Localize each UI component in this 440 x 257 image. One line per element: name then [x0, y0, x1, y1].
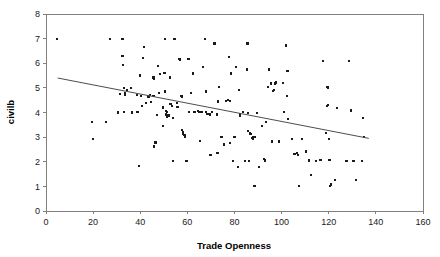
data-point — [223, 143, 225, 145]
data-point — [247, 112, 249, 114]
data-point — [246, 68, 248, 70]
data-point — [232, 160, 234, 162]
data-point — [124, 94, 126, 96]
data-point — [153, 76, 155, 78]
x-tick-label: 120 — [321, 217, 336, 227]
y-tick-label: 2 — [35, 157, 40, 167]
data-point — [326, 105, 328, 107]
scatter-chart: 012345678020406080100120140160 Trade Ope… — [0, 0, 440, 257]
data-point — [122, 64, 124, 66]
data-point — [166, 111, 168, 113]
data-point — [136, 111, 138, 113]
data-point — [252, 138, 254, 140]
x-tick-label: 20 — [88, 217, 98, 227]
data-point — [256, 112, 258, 114]
data-point — [248, 160, 250, 162]
data-point — [121, 55, 123, 57]
data-point — [238, 89, 240, 91]
data-point — [301, 138, 303, 140]
data-point — [218, 86, 220, 88]
data-point — [330, 183, 332, 185]
data-point — [239, 114, 241, 116]
data-point — [187, 58, 189, 60]
data-point — [274, 82, 276, 84]
data-point — [355, 179, 357, 181]
data-point — [265, 121, 267, 123]
data-point — [205, 111, 207, 113]
data-point — [225, 100, 227, 102]
data-point — [121, 38, 123, 40]
data-point — [123, 111, 125, 113]
data-point — [246, 42, 248, 44]
data-point — [204, 38, 206, 40]
data-point — [205, 90, 207, 92]
data-point — [171, 105, 173, 107]
data-point — [162, 106, 164, 108]
data-point — [130, 87, 132, 89]
data-point — [172, 160, 174, 162]
data-point — [254, 136, 256, 138]
data-point — [166, 116, 168, 118]
data-point — [56, 38, 58, 40]
y-tick-label: 0 — [35, 206, 40, 216]
data-point — [230, 72, 232, 74]
data-point — [216, 113, 218, 115]
data-point — [271, 140, 273, 142]
data-point — [270, 82, 272, 84]
data-point — [143, 46, 145, 48]
data-point — [177, 106, 179, 108]
data-point — [334, 179, 336, 181]
data-point — [159, 73, 161, 75]
data-point — [229, 100, 231, 102]
data-point — [258, 166, 260, 168]
data-point — [322, 60, 324, 62]
x-tick-label: 140 — [368, 217, 383, 227]
data-point — [169, 76, 171, 78]
x-tick-label: 0 — [43, 217, 48, 227]
y-tick-label: 5 — [35, 83, 40, 93]
data-point — [162, 125, 164, 127]
data-point — [213, 42, 215, 44]
data-point — [131, 111, 133, 113]
data-point — [235, 66, 237, 68]
data-point — [167, 114, 169, 116]
data-point — [328, 159, 330, 161]
data-point — [278, 140, 280, 142]
data-point — [91, 121, 93, 123]
data-point — [361, 160, 363, 162]
data-point — [165, 113, 167, 115]
data-point — [163, 72, 165, 74]
data-point — [253, 185, 255, 187]
data-point — [327, 87, 329, 89]
data-point — [352, 160, 354, 162]
data-point — [209, 113, 211, 115]
data-point — [153, 145, 155, 147]
data-point — [267, 86, 269, 88]
data-point — [190, 92, 192, 94]
data-point — [252, 136, 254, 138]
data-point — [176, 102, 178, 104]
x-tick-label: 60 — [182, 217, 192, 227]
data-point — [164, 38, 166, 40]
data-point — [298, 185, 300, 187]
data-point — [211, 111, 213, 113]
data-point — [345, 160, 347, 162]
data-point — [249, 133, 251, 135]
data-point — [216, 152, 218, 154]
data-point — [220, 136, 222, 138]
x-tick-label: 80 — [229, 217, 239, 227]
data-point — [154, 141, 156, 143]
data-point — [150, 101, 152, 103]
data-point — [282, 82, 284, 84]
data-point — [286, 70, 288, 72]
data-point — [140, 95, 142, 97]
data-point — [200, 111, 202, 113]
data-point — [350, 109, 352, 111]
data-point — [315, 160, 317, 162]
data-point — [105, 121, 107, 123]
data-point — [157, 65, 159, 67]
data-point — [202, 66, 204, 68]
data-point — [145, 102, 147, 104]
data-point — [136, 94, 138, 96]
data-point — [305, 150, 307, 152]
